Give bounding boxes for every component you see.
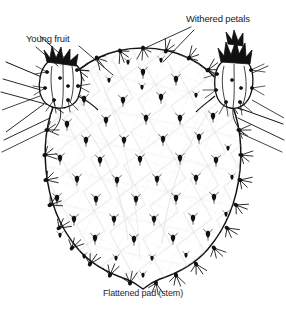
label-withered-petals: Withered petals: [186, 13, 250, 24]
cactus-pad-illustration: [0, 0, 286, 312]
label-young-fruit: Young fruit: [26, 33, 69, 44]
caption-flattened-pad: Flattened pad (stem): [0, 288, 286, 299]
figure-root: Young fruit Withered petals Flattened pa…: [0, 0, 286, 312]
